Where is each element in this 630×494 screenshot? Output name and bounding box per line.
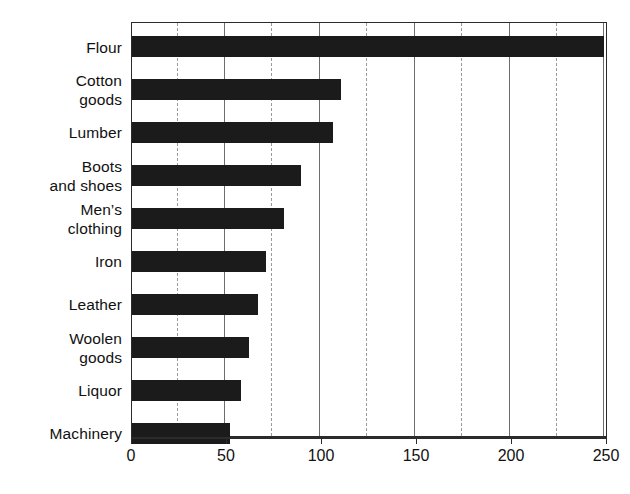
gridline-125: [366, 23, 367, 436]
bar-flour: [132, 36, 604, 57]
x-tick-label-150: 150: [403, 446, 430, 466]
bar-lumber: [132, 122, 333, 143]
category-label-flour: Flour: [0, 38, 122, 57]
category-label-iron: Iron: [0, 252, 122, 271]
x-tick-100: [321, 437, 322, 444]
bar-woolen-goods: [132, 337, 249, 358]
bar-iron: [132, 251, 266, 272]
x-tick-label-100: 100: [308, 446, 335, 466]
bar-mens-clothing: [132, 208, 284, 229]
gridline-150: [414, 23, 415, 436]
plot-area: [131, 22, 607, 437]
bar-chart: Flour Cotton goods Lumber Boots and shoe…: [0, 0, 630, 494]
gridline-200: [509, 23, 510, 436]
category-label-boots-and-shoes: Boots and shoes: [0, 157, 122, 195]
x-tick-200: [511, 437, 512, 444]
x-tick-150: [416, 437, 417, 444]
x-tick-label-250: 250: [593, 446, 620, 466]
category-label-leather: Leather: [0, 295, 122, 314]
x-tick-0: [131, 437, 132, 444]
x-tick-250: [606, 437, 607, 444]
gridline-250: [603, 23, 604, 436]
category-label-machinery: Machinery: [0, 424, 122, 443]
category-label-liquor: Liquor: [0, 381, 122, 400]
x-tick-50: [226, 437, 227, 444]
x-tick-label-0: 0: [127, 446, 136, 466]
x-axis-line: [131, 437, 607, 439]
bar-leather: [132, 294, 258, 315]
gridline-225: [556, 23, 557, 436]
category-label-woolen-goods: Woolen goods: [0, 329, 122, 367]
category-label-lumber: Lumber: [0, 123, 122, 142]
bar-cotton-goods: [132, 79, 341, 100]
x-tick-label-50: 50: [217, 446, 235, 466]
bar-machinery: [132, 423, 230, 444]
bar-boots-and-shoes: [132, 165, 301, 186]
category-label-mens-clothing: Men’s clothing: [0, 200, 122, 238]
bar-liquor: [132, 380, 241, 401]
category-axis-labels: Flour Cotton goods Lumber Boots and shoe…: [0, 18, 122, 430]
gridline-175: [461, 23, 462, 436]
category-label-cotton-goods: Cotton goods: [0, 71, 122, 109]
x-tick-label-200: 200: [498, 446, 525, 466]
